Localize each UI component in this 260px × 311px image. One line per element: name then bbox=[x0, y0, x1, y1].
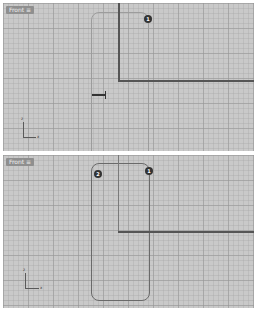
x-axis-label: x bbox=[37, 134, 39, 139]
callout-marker-2: 2 bbox=[94, 170, 102, 178]
callout-marker-1: 1 bbox=[144, 15, 152, 23]
vertical-line-curve[interactable] bbox=[118, 155, 119, 232]
rounded-rectangle-curve[interactable] bbox=[91, 12, 149, 151]
gumball-z-tick[interactable] bbox=[105, 91, 106, 99]
z-axis-icon bbox=[25, 273, 26, 288]
z-axis-label: z bbox=[23, 267, 25, 272]
gumball-x-arrow[interactable] bbox=[92, 94, 105, 96]
viewport-label[interactable]: Front ≡ bbox=[6, 158, 34, 166]
front-viewport-top[interactable]: Front ≡ 1 z x bbox=[3, 3, 254, 151]
x-axis-icon bbox=[25, 288, 39, 289]
marker-text: 2 bbox=[96, 171, 99, 177]
horizontal-line-curve[interactable] bbox=[118, 80, 254, 82]
viewport-label[interactable]: Front ≡ bbox=[6, 6, 34, 14]
x-axis-icon bbox=[23, 137, 36, 138]
vertical-line-curve[interactable] bbox=[118, 3, 120, 81]
x-axis-label: x bbox=[40, 285, 42, 290]
marker-text: 1 bbox=[146, 16, 149, 22]
front-viewport-bottom[interactable]: Front ≡ 2 1 z x bbox=[3, 155, 254, 308]
z-axis-icon bbox=[23, 122, 24, 137]
horizontal-line-curve[interactable] bbox=[118, 231, 254, 233]
z-axis-label: z bbox=[21, 116, 23, 121]
callout-marker-1: 1 bbox=[145, 167, 153, 175]
marker-text: 1 bbox=[147, 168, 150, 174]
